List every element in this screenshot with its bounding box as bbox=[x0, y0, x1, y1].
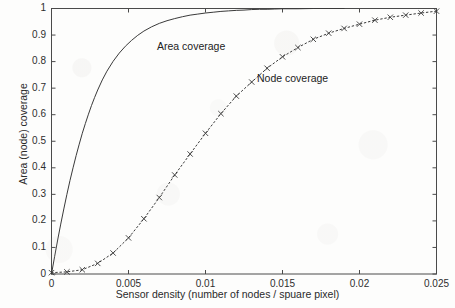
series-line-2 bbox=[52, 11, 437, 273]
series-markers-2 bbox=[49, 8, 439, 275]
chart-plot bbox=[0, 0, 455, 308]
y-tick-label: 0.9 bbox=[6, 29, 46, 40]
figure-canvas: 00.10.20.30.40.50.60.70.80.91 00.0050.01… bbox=[0, 0, 455, 308]
series-annotation-node-coverage: Node coverage bbox=[257, 72, 328, 84]
series-layer bbox=[49, 8, 439, 275]
axis-box bbox=[52, 9, 437, 275]
x-axis-title: Sensor density (number of nodes / spuare… bbox=[0, 288, 455, 300]
y-tick-label: 1 bbox=[6, 2, 46, 13]
series-annotation-area-coverage: Area coverage bbox=[157, 40, 225, 52]
y-axis-title: Area (node) coverage bbox=[17, 49, 29, 219]
y-tick-label: 0 bbox=[6, 268, 46, 279]
tick-marks bbox=[52, 9, 437, 275]
y-tick-label: 0.1 bbox=[6, 241, 46, 252]
